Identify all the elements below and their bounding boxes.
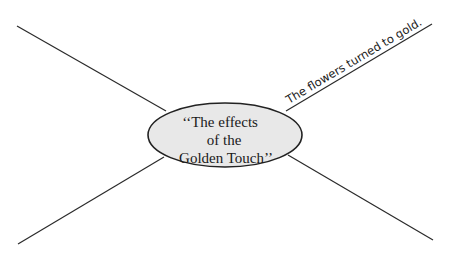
branch-label-top-right: The flowers turned to gold. — [283, 15, 425, 107]
branch-line-bottom-right — [288, 155, 433, 240]
center-line-2: of the — [207, 132, 242, 148]
branch-line-top-left — [17, 26, 166, 111]
center-line-3: Golden Touch’’ — [179, 150, 273, 166]
branch-line-bottom-left — [18, 157, 164, 244]
branch-line-top-right — [286, 24, 432, 111]
spider-map: ‘‘The effects of the Golden Touch’’ The … — [0, 0, 452, 255]
center-line-1: ‘‘The effects — [182, 114, 258, 130]
